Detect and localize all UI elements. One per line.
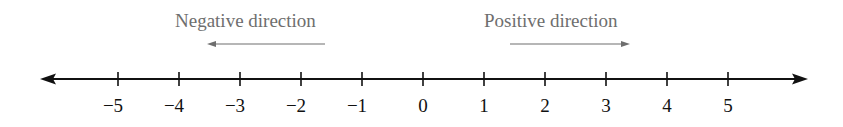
- number-line-svg: Negative direction Positive direction −5…: [0, 0, 843, 127]
- positive-direction-label: Positive direction: [484, 10, 618, 31]
- tick-label: 2: [540, 95, 550, 116]
- tick-label: −4: [164, 95, 185, 116]
- number-line-diagram: Negative direction Positive direction −5…: [0, 0, 843, 127]
- positive-direction-arrow-icon: [510, 41, 630, 47]
- tick-label: 0: [418, 95, 428, 116]
- number-line-axis: [40, 74, 808, 85]
- negative-direction-label: Negative direction: [175, 10, 316, 31]
- tick-label: −1: [347, 95, 367, 116]
- tick-label: 5: [723, 95, 733, 116]
- tick-label: −3: [225, 95, 245, 116]
- tick-label: −2: [286, 95, 306, 116]
- negative-direction-arrow-icon: [207, 41, 325, 47]
- tick-label: 3: [601, 95, 611, 116]
- tick-label: 4: [662, 95, 672, 116]
- tick-label: 1: [479, 95, 489, 116]
- tick-label: −5: [103, 95, 123, 116]
